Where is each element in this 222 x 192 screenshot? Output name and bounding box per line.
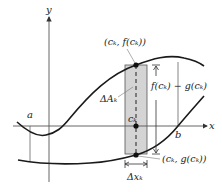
lower-point-label: (cₖ, g(cₖ))	[162, 153, 207, 164]
y-axis-label: y	[45, 4, 52, 15]
point-sample	[133, 123, 138, 128]
width-label: Δxₖ	[126, 171, 143, 182]
height-label: f(cₖ) − g(cₖ)	[150, 80, 207, 91]
b-label: b	[175, 129, 181, 140]
lower-point-leader	[138, 156, 160, 159]
area-element-label: ΔAₖ	[99, 93, 118, 104]
point-lower	[133, 152, 138, 157]
upper-point-label: (cₖ, f(cₖ))	[104, 36, 146, 47]
sample-point-label: cₖ	[128, 113, 137, 124]
point-upper	[133, 62, 138, 67]
upper-point-leader	[127, 49, 135, 63]
a-label: a	[27, 109, 33, 120]
area-between-curves-diagram: y x a b (cₖ, f(cₖ)) f(cₖ) − g(cₖ) ΔAₖ cₖ…	[0, 0, 222, 192]
x-axis-label: x	[209, 120, 215, 131]
